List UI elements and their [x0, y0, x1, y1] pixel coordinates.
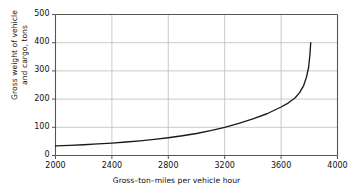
y-tick-label: 0: [22, 150, 50, 159]
chart-figure: Gross weight of vehicle and cargo, tons …: [0, 0, 353, 193]
tick-marks: [52, 15, 338, 160]
plot-frame: [56, 15, 338, 156]
x-axis-title: Gross–ton–miles per vehicle hour: [0, 176, 353, 185]
x-tick-label: 4000: [318, 161, 353, 170]
y-tick-label: 200: [22, 94, 50, 103]
y-tick-label: 300: [22, 65, 50, 74]
y-tick-label: 400: [22, 37, 50, 46]
x-tick-label: 2400: [92, 161, 132, 170]
y-tick-label: 100: [22, 122, 50, 131]
x-tick-label: 2000: [36, 161, 76, 170]
y-axis-title-line1: Gross weight of vehicle: [10, 0, 20, 115]
y-tick-label: 500: [22, 9, 50, 18]
x-tick-label: 3200: [205, 161, 245, 170]
gridlines: [56, 15, 338, 156]
x-tick-label: 3600: [261, 161, 301, 170]
data-curve: [56, 43, 311, 146]
x-tick-label: 2800: [148, 161, 188, 170]
